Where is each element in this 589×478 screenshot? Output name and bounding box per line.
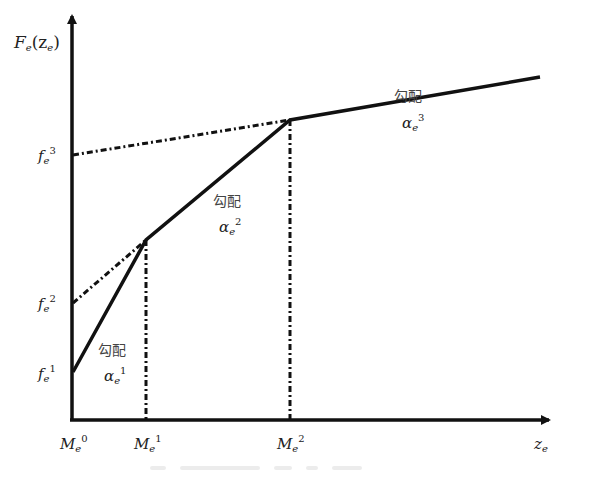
segment-3-label: 勾配 bbox=[394, 85, 422, 105]
extension-line-segment-3 bbox=[73, 120, 290, 155]
piecewise-function-line bbox=[73, 77, 540, 372]
segment-2-label: 勾配 bbox=[213, 190, 241, 210]
y-axis-label: Fe(ze) bbox=[14, 34, 60, 53]
x-tick-M2: Me2 bbox=[277, 434, 305, 454]
diagram-graphics bbox=[0, 0, 589, 478]
x-axis-label: ze bbox=[534, 437, 548, 454]
segment-1-label: 勾配 bbox=[98, 339, 126, 359]
segment-1-slope: αe1 bbox=[104, 366, 126, 386]
y-tick-f3: fe3 bbox=[38, 146, 56, 166]
x-tick-M1: Me1 bbox=[134, 434, 162, 454]
extension-line-segment-2 bbox=[73, 240, 146, 303]
segment-3-slope: αe3 bbox=[402, 113, 424, 133]
segment-2-slope: αe2 bbox=[219, 217, 241, 237]
y-tick-f1: fe1 bbox=[38, 364, 56, 384]
diagram-canvas: Fe(ze) fe3 fe2 fe1 Me0 Me1 Me2 ze 勾配 αe1… bbox=[0, 0, 589, 478]
figure-caption-faint bbox=[150, 466, 440, 472]
y-tick-f2: fe2 bbox=[38, 294, 56, 314]
x-tick-M0: Me0 bbox=[60, 434, 88, 454]
